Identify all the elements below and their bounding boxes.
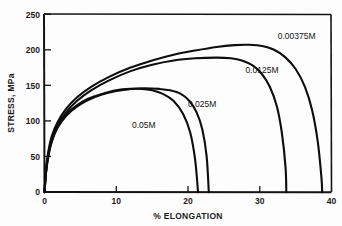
chart-canvas: 250 200 150 100 50 0 0 10 20 30 40 STRES…: [0, 0, 342, 226]
y-tick-label-50: 50: [31, 152, 41, 162]
stress-elongation-chart: 250 200 150 100 50 0 0 10 20 30 40 STRES…: [0, 0, 342, 226]
data-curves: [45, 45, 323, 192]
series-label-0-00375M: 0.00375M: [278, 31, 316, 41]
curve-0-05M: [45, 89, 199, 192]
y-tick-label-100: 100: [26, 116, 40, 126]
series-label-0-025M: 0.025M: [188, 99, 216, 109]
x-tick-label-40: 40: [327, 196, 337, 206]
curve-0-0125M: [45, 58, 287, 192]
y-tick-label-150: 150: [26, 81, 40, 91]
y-tick-label-0: 0: [35, 187, 40, 197]
x-tick-label-20: 20: [183, 196, 193, 206]
series-label-0-0125M: 0.0125M: [245, 65, 278, 75]
y-axis-ticks: [45, 14, 52, 156]
x-tick-label-30: 30: [255, 196, 265, 206]
y-axis-title: STRESS, MPa: [6, 73, 16, 133]
x-axis-title: % ELONGATION: [153, 211, 223, 221]
y-tick-label-250: 250: [26, 10, 40, 20]
series-label-0-05M: 0.05M: [132, 120, 156, 130]
x-tick-labels: 0 10 20 30 40: [42, 196, 336, 206]
y-tick-labels: 250 200 150 100 50 0: [26, 10, 40, 198]
y-tick-label-200: 200: [26, 45, 40, 55]
x-tick-label-0: 0: [42, 196, 47, 206]
x-tick-label-10: 10: [112, 196, 122, 206]
